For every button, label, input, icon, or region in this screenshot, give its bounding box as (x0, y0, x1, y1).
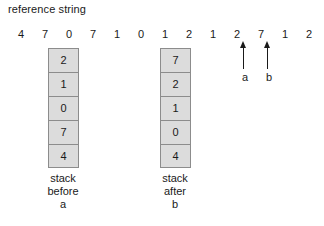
arrow-a-icon (238, 41, 249, 69)
stack-after-b-caption: stackafterb (130, 172, 220, 211)
stack-cell: 2 (48, 48, 79, 72)
stack-cell: 0 (48, 96, 79, 120)
lru-stack-diagram: reference string 4707101212712 21074stac… (0, 0, 324, 226)
caption-line: stack (130, 172, 220, 185)
arrow-a-label: a (238, 71, 252, 84)
reference-string-digit: 2 (302, 27, 316, 41)
reference-string-digit: 7 (254, 27, 268, 41)
stack-cell: 1 (48, 72, 79, 96)
stack-cell: 7 (48, 120, 79, 144)
reference-string-digit: 0 (134, 27, 148, 41)
arrow-b-icon (262, 41, 273, 69)
reference-string-digit: 2 (230, 27, 244, 41)
reference-string-digit: 0 (62, 27, 76, 41)
reference-string-digit: 7 (38, 27, 52, 41)
caption-line: before (18, 185, 108, 198)
reference-string-digit: 1 (206, 27, 220, 41)
stack-cell: 7 (160, 48, 191, 72)
arrow-b-label: b (262, 71, 276, 84)
caption-line: a (18, 198, 108, 211)
caption-line: stack (18, 172, 108, 185)
reference-string-digit: 1 (110, 27, 124, 41)
stack-cell: 4 (48, 144, 79, 168)
reference-string-digit: 1 (158, 27, 172, 41)
caption-line: after (130, 185, 220, 198)
arrow-shaft (267, 47, 268, 69)
reference-string-digit: 2 (182, 27, 196, 41)
reference-string-digit: 1 (278, 27, 292, 41)
arrow-shaft (243, 47, 244, 69)
stack-cell: 2 (160, 72, 191, 96)
stack-cell: 4 (160, 144, 191, 168)
stack-cell: 0 (160, 120, 191, 144)
page-title: reference string (8, 3, 86, 15)
stack-after-b: 72104 (160, 48, 191, 168)
reference-string-digit: 4 (14, 27, 28, 41)
stack-before-a-caption: stackbeforea (18, 172, 108, 211)
stack-cell: 1 (160, 96, 191, 120)
reference-string-digit: 7 (86, 27, 100, 41)
stack-before-a: 21074 (48, 48, 79, 168)
caption-line: b (130, 198, 220, 211)
